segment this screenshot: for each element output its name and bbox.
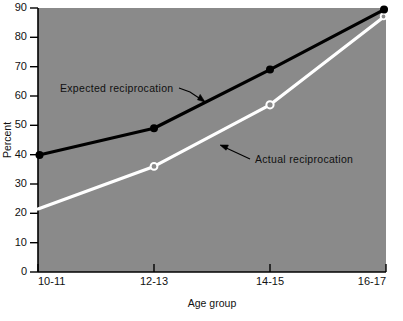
y-tick-label-30: 30 bbox=[15, 177, 27, 189]
plot-area-background bbox=[38, 8, 386, 272]
expected-reciprocation-point-16-17 bbox=[380, 6, 388, 14]
x-axis-title: Age group bbox=[188, 297, 237, 309]
expected-reciprocation-point-12-13 bbox=[150, 124, 158, 132]
actual-reciprocation-point-12-13 bbox=[151, 163, 158, 170]
y-tick-label-90: 90 bbox=[15, 1, 27, 13]
y-tick-label-70: 70 bbox=[15, 60, 27, 72]
x-tick-label-14-15: 14-15 bbox=[256, 275, 284, 287]
expected-reciprocation-point-14-15 bbox=[266, 66, 274, 74]
y-axis-title: Percent bbox=[1, 122, 13, 158]
line-chart: 90 80 70 60 50 40 30 20 10 0 Percent 10-… bbox=[0, 0, 403, 321]
y-tick-label-60: 60 bbox=[15, 89, 27, 101]
expected-reciprocation-point-10-11 bbox=[36, 151, 44, 159]
annotation-actual-label: Actual reciprocation bbox=[255, 153, 353, 165]
x-tick-label-12-13: 12-13 bbox=[140, 275, 168, 287]
y-tick-label-20: 20 bbox=[15, 206, 27, 218]
actual-reciprocation-point-14-15 bbox=[266, 101, 273, 108]
x-tick-label-16-17: 16-17 bbox=[358, 275, 386, 287]
y-tick-label-80: 80 bbox=[15, 30, 27, 42]
y-tick-label-50: 50 bbox=[15, 118, 27, 130]
actual-reciprocation-point-16-17 bbox=[381, 14, 387, 20]
y-tick-label-0: 0 bbox=[21, 265, 27, 277]
y-tick-label-40: 40 bbox=[15, 148, 27, 160]
annotation-expected-label: Expected reciprocation bbox=[60, 82, 173, 94]
x-tick-label-10-11: 10-11 bbox=[38, 275, 65, 287]
chart-container: 90 80 70 60 50 40 30 20 10 0 Percent 10-… bbox=[0, 0, 403, 321]
y-tick-label-10: 10 bbox=[15, 236, 27, 248]
